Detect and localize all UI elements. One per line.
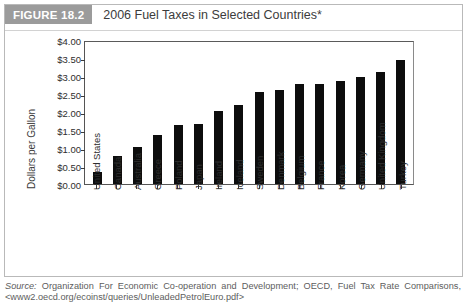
figure-number-badge: FIGURE 18.2 [5, 5, 92, 24]
x-label-slot: United States [86, 190, 106, 256]
x-label-slot: Denmark [269, 190, 289, 256]
y-axis-tick-labels: $4.00$3.50$3.00$2.50$2.00$1.50$1.00$0.50… [41, 41, 81, 185]
bar-slot [330, 42, 350, 184]
x-label-slot: Canada [106, 190, 126, 256]
x-tick-label: United States [91, 133, 102, 190]
y-tick-label: $2.00 [57, 108, 81, 119]
x-label-slot: Iceland [229, 190, 249, 256]
x-tick-label: Ireland [213, 161, 224, 190]
x-tick-label: France [315, 160, 326, 190]
y-tick-label: $1.50 [57, 126, 81, 137]
x-tick-label: Australia [131, 153, 142, 190]
x-label-slot: Japan [188, 190, 208, 256]
x-tick-label: Belgium [294, 156, 305, 190]
source-url: <www2.oecd.org/ecoinst/queries/UnleadedP… [5, 292, 461, 303]
y-axis-label: Dollars per Gallon [23, 89, 39, 209]
x-label-slot: Poland [168, 190, 188, 256]
y-tick-label: $2.50 [57, 90, 81, 101]
x-tick-label: Sweden [254, 156, 265, 190]
figure-title: 2006 Fuel Taxes in Selected Countries* [92, 5, 322, 25]
x-label-slot: Sweden [249, 190, 269, 256]
x-label-slot: Ireland [208, 190, 228, 256]
bar-slot [188, 42, 208, 184]
x-tick-label: Korea [335, 165, 346, 190]
y-tick-label: $4.00 [57, 36, 81, 47]
x-tick-label: Japan [193, 164, 204, 190]
x-label-slot: Germany [351, 190, 371, 256]
x-tick-label: Canada [111, 157, 122, 190]
x-tick-label: Germany [356, 151, 367, 190]
x-label-slot: Belgium [290, 190, 310, 256]
x-tick-label: Greece [152, 159, 163, 190]
x-label-slot: Korea [331, 190, 351, 256]
y-tick-label: $3.50 [57, 54, 81, 65]
figure-header: FIGURE 18.2 2006 Fuel Taxes in Selected … [5, 5, 462, 25]
source-text: Organization For Economic Co-operation a… [42, 281, 461, 291]
y-tick-label: $0.00 [57, 180, 81, 191]
x-tick-label: Poland [172, 160, 183, 190]
x-label-slot: France [310, 190, 330, 256]
x-label-slot: Greece [147, 190, 167, 256]
x-tick-label: United Kingdom [376, 122, 387, 190]
source-label: Source: [5, 281, 37, 291]
x-label-slot: Australia [127, 190, 147, 256]
source-note: Source: Organization For Economic Co-ope… [5, 281, 461, 302]
y-tick-label: $1.00 [57, 144, 81, 155]
chart-area: Dollars per Gallon $4.00$3.50$3.00$2.50$… [5, 33, 462, 263]
header-divider [5, 30, 462, 31]
x-label-slot: United Kingdom [371, 190, 391, 256]
x-axis-tick-labels: United StatesCanadaAustraliaGreecePoland… [84, 190, 414, 256]
figure-container: FIGURE 18.2 2006 Fuel Taxes in Selected … [0, 0, 467, 303]
y-tick-label: $0.50 [57, 162, 81, 173]
x-tick-label: Iceland [233, 159, 244, 190]
x-label-slot: Turkey [392, 190, 412, 256]
x-tick-label: Denmark [274, 151, 285, 190]
x-tick-label: Turkey [396, 161, 407, 190]
y-tick-label: $3.00 [57, 72, 81, 83]
